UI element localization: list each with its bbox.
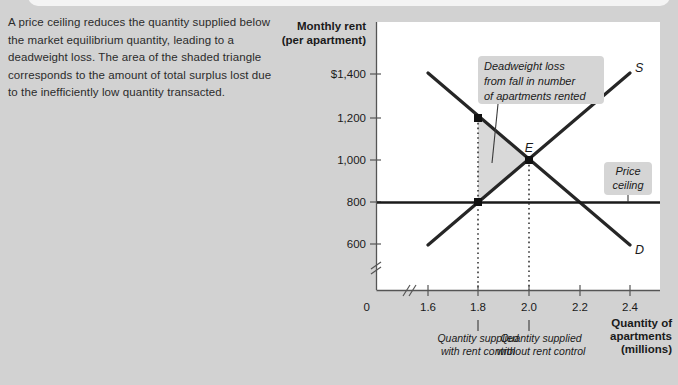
price-ceiling-annotation-line2: ceiling — [612, 179, 644, 191]
point-marker-supply-ceiling — [474, 198, 482, 206]
x-tick-label-1-6: 1.6 — [420, 301, 436, 313]
y-axis-title-line1: Monthly rent — [297, 20, 366, 32]
demand-curve-label: D — [635, 243, 644, 257]
price-ceiling-chart: Monthly rent (per apartment) $1,400 1,20… — [0, 0, 678, 385]
deadweight-loss-annotation-line3: of apartments rented — [484, 90, 586, 102]
x-axis-title-line1: Quantity of — [611, 317, 672, 329]
x-tick-label-2-0: 2.0 — [521, 301, 537, 313]
price-ceiling-annotation-line1: Price — [615, 165, 640, 177]
supply-curve-label: S — [635, 61, 644, 75]
equilibrium-point-label: E — [525, 141, 534, 155]
y-tick-label-1400: $1,400 — [331, 68, 366, 80]
x-tick-label-2-4: 2.4 — [622, 301, 639, 313]
deadweight-loss-annotation-line2: from fall in number — [484, 75, 576, 87]
y-tick-label-800: 800 — [347, 196, 366, 208]
x-tick-label-1-8: 1.8 — [470, 301, 486, 313]
y-axis-title-line2: (per apartment) — [282, 34, 367, 46]
x-tick-label-2-2: 2.2 — [572, 301, 588, 313]
point-marker-equilibrium — [525, 156, 533, 164]
quantity-without-rent-control-annotation: Quantity supplied without rent control — [497, 320, 586, 357]
y-tick-label-1200: 1,200 — [337, 112, 366, 124]
y-tick-label-1000: 1,000 — [337, 154, 366, 166]
deadweight-loss-annotation-line1: Deadweight loss — [484, 60, 565, 72]
point-marker-demand-restricted — [474, 114, 482, 122]
y-tick-label-600: 600 — [347, 238, 366, 250]
x-axis-title-line2: apartments — [610, 330, 672, 342]
without-rent-control-line1: Quantity supplied — [500, 332, 582, 344]
x-axis-title-line3: (millions) — [621, 343, 672, 355]
figure-container: A price ceiling reduces the quantity sup… — [0, 0, 678, 385]
origin-label: 0 — [364, 301, 370, 313]
without-rent-control-line2: without rent control — [497, 345, 586, 357]
